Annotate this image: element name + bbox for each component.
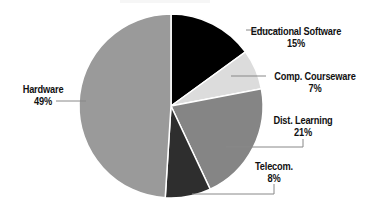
slice-label-name: Comp. Courseware	[258, 70, 372, 82]
slice-label: Telecom.8%	[217, 160, 331, 184]
slice-label-percent: 8%	[217, 172, 331, 184]
slice-label-name: Hardware	[0, 83, 100, 95]
slice-label-percent: 7%	[258, 82, 372, 94]
slice-label-percent: 49%	[0, 95, 100, 107]
slice-label-name: Educational Software	[239, 25, 353, 37]
slice-label: Hardware49%	[0, 83, 100, 107]
slice-label-percent: 15%	[239, 37, 353, 49]
slice-label-name: Dist. Learning	[246, 114, 360, 126]
slice-label: Comp. Courseware7%	[258, 70, 372, 94]
slice-label: Dist. Learning21%	[246, 114, 360, 138]
slice-label-percent: 21%	[246, 126, 360, 138]
slice-label: Educational Software15%	[239, 25, 353, 49]
slice-label-name: Telecom.	[217, 160, 331, 172]
